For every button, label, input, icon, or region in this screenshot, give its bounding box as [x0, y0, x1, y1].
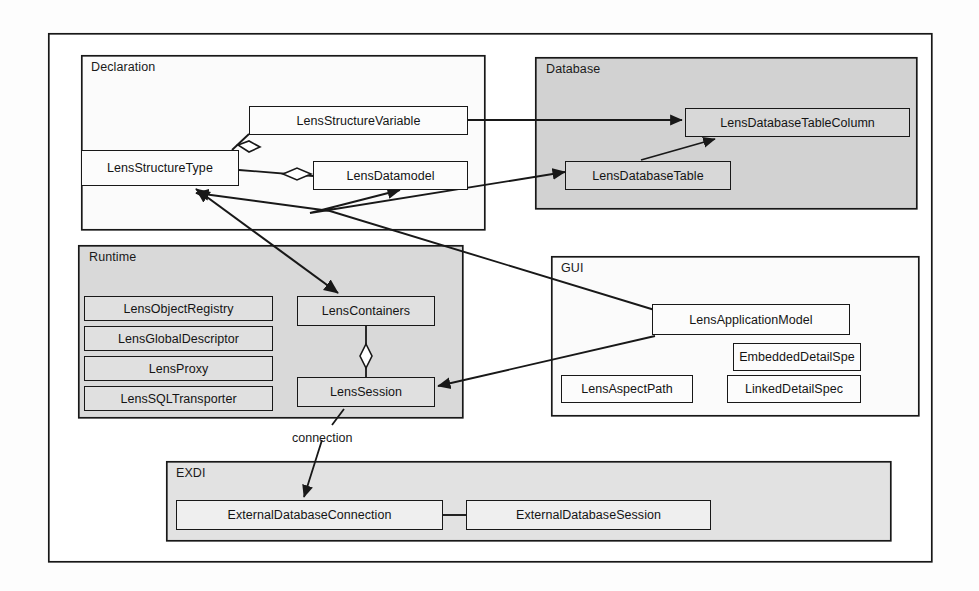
class-label: LinkedDetailSpec [745, 382, 843, 396]
class-box-lens-object-registry[interactable]: LensObjectRegistry [84, 296, 273, 321]
class-label: LensSession [330, 385, 402, 399]
class-label: LensContainers [322, 304, 410, 318]
class-label: LensGlobalDescriptor [118, 332, 239, 346]
class-label: LensObjectRegistry [124, 302, 234, 316]
class-box-lens-session[interactable]: LensSession [297, 377, 435, 407]
class-box-external-database-connection[interactable]: ExternalDatabaseConnection [176, 500, 443, 530]
class-box-lens-global-descriptor[interactable]: LensGlobalDescriptor [84, 326, 273, 351]
class-box-lens-datamodel[interactable]: LensDatamodel [313, 161, 468, 190]
class-box-embedded-detail-spe[interactable]: EmbeddedDetailSpe [733, 343, 861, 371]
class-box-lens-database-table[interactable]: LensDatabaseTable [565, 161, 731, 190]
edge-structuretype-to-containers [196, 189, 338, 293]
class-box-lens-application-model[interactable]: LensApplicationModel [652, 304, 850, 335]
class-label: LensAspectPath [581, 382, 673, 396]
class-box-lens-aspect-path[interactable]: LensAspectPath [561, 375, 693, 403]
class-label: LensDatabaseTable [592, 169, 703, 183]
class-label: LensStructureVariable [297, 114, 421, 128]
edge-label-connection: connection [292, 431, 352, 445]
class-box-lens-sql-transporter[interactable]: LensSQLTransporter [84, 386, 273, 411]
class-label: LensApplicationModel [689, 313, 812, 327]
class-label: ExternalDatabaseConnection [228, 508, 392, 522]
class-box-external-database-session[interactable]: ExternalDatabaseSession [466, 500, 711, 530]
class-label: ExternalDatabaseSession [516, 508, 661, 522]
edge-session-to-externaldatabaseconnection [304, 409, 344, 497]
edge-databasetable-to-tablecolumn [641, 139, 715, 160]
diagram-canvas: Declaration Database Runtime GUI EXDI [0, 0, 979, 591]
class-label: LensDatabaseTableColumn [720, 116, 875, 130]
edge-applicationmodel-to-structuretype [196, 193, 658, 311]
class-box-linked-detail-spec[interactable]: LinkedDetailSpec [727, 375, 861, 403]
class-label: LensProxy [149, 362, 209, 376]
class-box-lens-structure-type[interactable]: LensStructureType [81, 150, 239, 186]
class-box-lens-containers[interactable]: LensContainers [297, 296, 435, 326]
class-label: LensDatamodel [346, 169, 434, 183]
class-label: LensSQLTransporter [120, 392, 236, 406]
class-label: EmbeddedDetailSpe [739, 350, 855, 364]
class-label: LensStructureType [107, 161, 213, 175]
aggregation-diamond-containers [360, 344, 372, 368]
class-box-lens-structure-variable[interactable]: LensStructureVariable [249, 106, 468, 135]
aggregation-diamond-structurevariable [238, 141, 260, 152]
class-box-lens-proxy[interactable]: LensProxy [84, 356, 273, 381]
class-box-lens-database-table-column[interactable]: LensDatabaseTableColumn [685, 108, 910, 137]
aggregation-diamond-datamodel [283, 168, 311, 180]
